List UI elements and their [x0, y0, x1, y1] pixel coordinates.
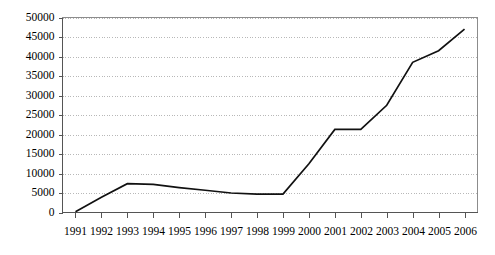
y-tick-label: 30000 — [26, 89, 55, 101]
x-tick-label: 2000 — [298, 225, 321, 237]
chart-background — [0, 0, 495, 255]
x-tick-label: 2003 — [376, 225, 399, 237]
x-tick-label: 1991 — [64, 225, 87, 237]
x-tick-label: 1996 — [194, 225, 217, 237]
y-tick-label: 15000 — [26, 147, 55, 159]
x-tick-label: 1992 — [90, 225, 113, 237]
line-chart-figure: 0500010000150002000025000300003500040000… — [0, 0, 495, 255]
y-tick-label: 50000 — [26, 11, 55, 23]
x-tick-label: 1995 — [168, 225, 191, 237]
y-tick-label: 5000 — [32, 186, 55, 198]
x-tick-label: 1997 — [220, 225, 243, 237]
x-tick-label: 1998 — [246, 225, 269, 237]
x-tick-label: 2005 — [428, 225, 451, 237]
x-tick-label: 1999 — [272, 225, 295, 237]
y-tick-label: 35000 — [26, 69, 55, 81]
x-tick-label: 2001 — [324, 225, 347, 237]
x-tick-label: 1994 — [142, 225, 165, 237]
y-tick-label: 20000 — [26, 128, 55, 140]
y-tick-label: 0 — [49, 206, 55, 218]
x-tick-label: 2006 — [454, 225, 477, 237]
x-tick-label: 2004 — [402, 225, 425, 237]
x-tick-label: 2002 — [350, 225, 373, 237]
y-tick-label: 40000 — [26, 50, 55, 62]
y-tick-label: 25000 — [26, 108, 55, 120]
chart-canvas: 0500010000150002000025000300003500040000… — [0, 0, 495, 255]
x-tick-label: 1993 — [116, 225, 139, 237]
y-tick-label: 45000 — [26, 30, 55, 42]
y-tick-label: 10000 — [26, 167, 55, 179]
